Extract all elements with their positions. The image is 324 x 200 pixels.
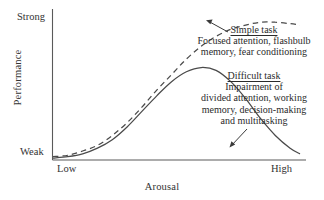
y-axis-top-tick-label: Strong: [17, 11, 45, 23]
annotation-difficult-task: Difficult task Impairment of divided att…: [186, 70, 322, 126]
yerkes-dodson-chart: Strong Weak Low High Arousal Performance…: [0, 0, 324, 200]
x-axis-left-tick-label: Low: [57, 163, 76, 175]
x-axis-right-tick-label: High: [271, 163, 292, 175]
y-axis-bottom-tick-label: Weak: [20, 146, 44, 158]
annotation-simple-task-title: Simple task: [186, 24, 322, 35]
annotation-simple-task-line-1: Focused attention, flashbulb: [186, 35, 322, 46]
annotation-difficult-task-title: Difficult task: [186, 70, 322, 81]
annotation-difficult-task-line-1: Impairment of: [186, 81, 322, 92]
x-axis-title: Arousal: [0, 181, 324, 192]
annotation-difficult-task-line-2: divided attention, working: [186, 92, 322, 103]
annotation-difficult-task-line-4: and multitasking: [186, 115, 322, 126]
annotation-difficult-task-line-3: memory, decision-making: [186, 104, 322, 115]
annotation-simple-task: Simple task Focused attention, flashbulb…: [186, 24, 322, 58]
arrow-difficult-task: [230, 129, 248, 148]
annotation-simple-task-line-2: memory, fear conditioning: [186, 46, 322, 57]
y-axis-title: Performance: [12, 38, 23, 118]
